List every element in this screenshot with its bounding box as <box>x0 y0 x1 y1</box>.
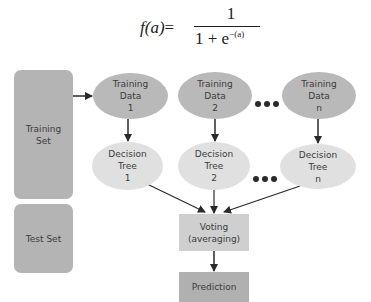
training-data-label: Training Data 2 <box>197 78 233 114</box>
voting-label: Voting (averaging) <box>188 221 240 245</box>
voting-box: Voting (averaging) <box>179 214 249 251</box>
training-data-label: Training Data 1 <box>113 78 149 114</box>
decision-tree-label: Decision Tree 2 <box>195 148 233 184</box>
ellipsis-dots-bottom <box>253 176 277 182</box>
training-data-n: Training Data n <box>282 72 356 119</box>
training-set-box: Training Set <box>14 70 73 199</box>
decision-tree-label: Decision Tree n <box>299 149 337 185</box>
prediction-label: Prediction <box>192 281 237 293</box>
test-set-label: Test Set <box>26 233 61 245</box>
decision-tree-1: Decision Tree 1 <box>92 142 163 190</box>
test-set-box: Test Set <box>14 204 73 273</box>
decision-tree-n: Decision Tree n <box>280 144 356 189</box>
training-set-label: Training Set <box>26 123 62 147</box>
prediction-box: Prediction <box>179 272 249 302</box>
ellipsis-dots-top <box>255 101 279 107</box>
training-data-1: Training Data 1 <box>93 73 168 119</box>
decision-tree-2: Decision Tree 2 <box>178 142 250 190</box>
training-data-2: Training Data 2 <box>178 72 252 119</box>
decision-tree-label: Decision Tree 1 <box>108 148 146 184</box>
training-data-label: Training Data n <box>301 78 337 114</box>
